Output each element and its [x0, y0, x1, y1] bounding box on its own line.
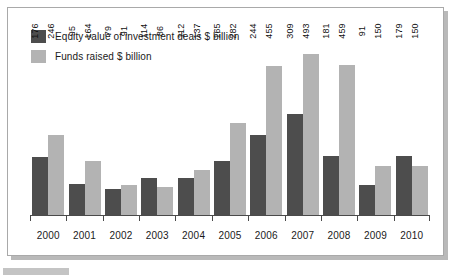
bar-wrapper: 282: [230, 45, 246, 215]
axis-label-2000: 2000: [30, 230, 66, 241]
chart-figure-frame: Equity value of investment deals $ billi…: [7, 7, 444, 256]
bar-equity[interactable]: [178, 178, 194, 215]
x-axis-labels: 2000200120022003200420052006200720082009…: [30, 230, 430, 241]
bar-wrapper: 309: [287, 45, 303, 215]
bar-wrapper: 244: [250, 45, 266, 215]
bar-funds[interactable]: [194, 170, 210, 215]
bar-funds[interactable]: [266, 66, 282, 215]
bar-wrapper: 95: [69, 45, 85, 215]
bar-value-label: 150: [373, 23, 383, 39]
axis-tick: [357, 216, 358, 221]
bar-value-label: 164: [83, 23, 93, 39]
axis-tick: [139, 216, 140, 221]
bar-funds[interactable]: [48, 135, 64, 215]
bar-wrapper: 493: [303, 45, 319, 215]
bar-wrapper: 181: [323, 45, 339, 215]
bar-funds[interactable]: [375, 166, 391, 215]
bar-group: 112137: [175, 45, 211, 215]
axis-tick: [103, 216, 104, 221]
bar-value-label: 91: [357, 26, 367, 36]
bar-wrapper: 79: [105, 45, 121, 215]
bar-value-label: 455: [264, 23, 274, 39]
bar-wrapper: 91: [359, 45, 375, 215]
axis-tick: [175, 216, 176, 221]
bar-wrapper: 165: [214, 45, 230, 215]
bar-wrapper: 164: [85, 45, 101, 215]
bar-wrapper: 150: [375, 45, 391, 215]
bar-value-label: 112: [176, 24, 186, 39]
bar-equity[interactable]: [287, 114, 303, 215]
bar-group: 11486: [139, 45, 175, 215]
page-tab-marker: [3, 268, 69, 275]
bar-wrapper: 455: [266, 45, 282, 215]
bar-funds[interactable]: [339, 65, 355, 215]
bar-funds[interactable]: [121, 185, 137, 215]
bar-equity[interactable]: [214, 161, 230, 215]
axis-label-2005: 2005: [212, 230, 248, 241]
bar-equity[interactable]: [359, 185, 375, 215]
bar-equity[interactable]: [396, 156, 412, 215]
bar-funds[interactable]: [230, 123, 246, 215]
axis-label-2010: 2010: [394, 230, 430, 241]
axis-label-2006: 2006: [248, 230, 284, 241]
bar-wrapper: 114: [141, 45, 157, 215]
bar-value-label: 282: [228, 23, 238, 39]
bar-value-label: 91: [119, 26, 129, 36]
bar-value-label: 137: [192, 23, 202, 39]
bar-value-label: 459: [337, 23, 347, 39]
bar-group: 91150: [357, 45, 393, 215]
bar-value-label: 181: [321, 23, 331, 39]
bar-group: 309493: [285, 45, 321, 215]
bar-groups: 1762469516479911148611213716528224445530…: [30, 45, 430, 215]
bar-group: 244455: [248, 45, 284, 215]
axis-tick: [212, 216, 213, 221]
axis-label-2002: 2002: [103, 230, 139, 241]
bar-value-label: 309: [285, 23, 295, 39]
bar-wrapper: 179: [396, 45, 412, 215]
bar-value-label: 95: [67, 26, 77, 36]
bar-value-label: 150: [410, 23, 420, 39]
axis-tick: [429, 216, 430, 221]
bar-wrapper: 459: [339, 45, 355, 215]
axis-tick: [30, 216, 31, 221]
axis-label-2004: 2004: [175, 230, 211, 241]
axis-label-2009: 2009: [357, 230, 393, 241]
bar-equity[interactable]: [69, 184, 85, 215]
bar-wrapper: 86: [157, 45, 173, 215]
legend-item-equity: Equity value of investment deals $ billi…: [31, 28, 239, 45]
bar-value-label: 493: [301, 23, 311, 39]
bar-equity[interactable]: [105, 189, 121, 215]
axis-label-2001: 2001: [66, 230, 102, 241]
axis-label-2007: 2007: [285, 230, 321, 241]
bar-funds[interactable]: [85, 161, 101, 215]
x-axis-ticks: [30, 216, 430, 221]
bar-group: 179150: [394, 45, 430, 215]
plot-area: Equity value of investment deals $ billi…: [8, 8, 443, 255]
bar-wrapper: 176: [32, 45, 48, 215]
bar-value-label: 244: [248, 23, 258, 39]
bar-wrapper: 150: [412, 45, 428, 215]
bar-value-label: 114: [139, 24, 149, 39]
bar-group: 165282: [212, 45, 248, 215]
axis-label-2003: 2003: [139, 230, 175, 241]
bar-value-label: 179: [394, 23, 404, 39]
bar-wrapper: 91: [121, 45, 137, 215]
bar-value-label: 246: [46, 23, 56, 39]
axis-tick: [248, 216, 249, 221]
bar-value-label: 79: [103, 26, 113, 36]
bar-equity[interactable]: [323, 156, 339, 215]
axis-tick: [321, 216, 322, 221]
bar-funds[interactable]: [412, 166, 428, 215]
bar-funds[interactable]: [157, 187, 173, 215]
bar-value-label: 176: [30, 23, 40, 39]
bar-equity[interactable]: [32, 157, 48, 215]
bar-value-label: 86: [155, 26, 165, 36]
bar-value-label: 165: [212, 23, 222, 39]
bar-group: 95164: [66, 45, 102, 215]
bar-funds[interactable]: [303, 54, 319, 215]
bar-group: 7991: [103, 45, 139, 215]
bar-wrapper: 112: [178, 45, 194, 215]
bar-equity[interactable]: [141, 178, 157, 215]
bar-equity[interactable]: [250, 135, 266, 215]
bar-wrapper: 246: [48, 45, 64, 215]
